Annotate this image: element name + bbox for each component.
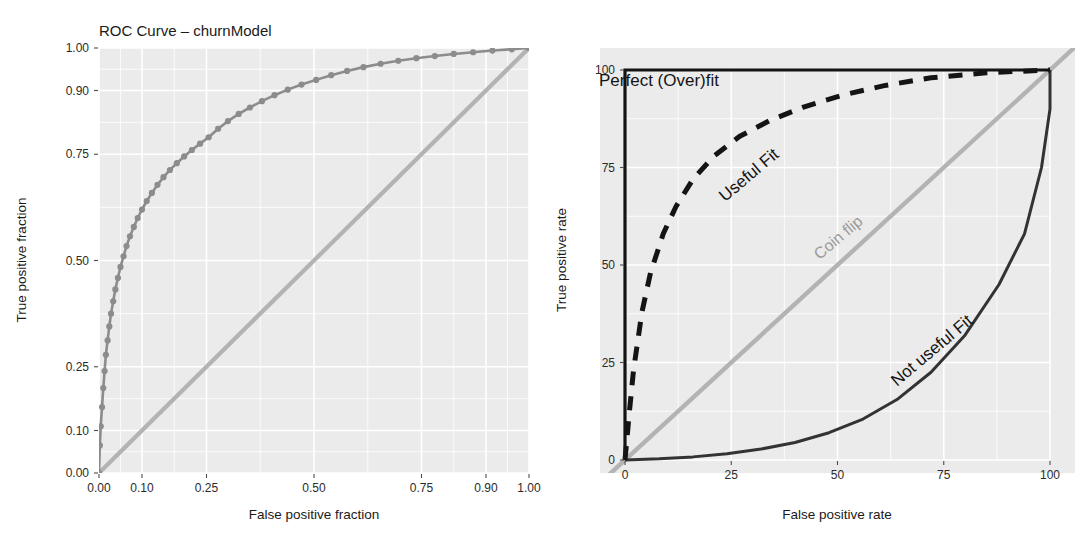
roc-point-marker [181, 153, 187, 159]
y-tick-label: 75 [602, 161, 616, 175]
roc-point-marker [108, 311, 114, 317]
x-tick-label: 50 [831, 468, 845, 482]
y-tick-label: 0.00 [66, 466, 90, 480]
roc-point-marker [139, 206, 145, 212]
roc-point-marker [189, 147, 195, 153]
x-tick-label: 0.90 [474, 481, 498, 495]
y-tick-label: 0.50 [66, 254, 90, 268]
roc-point-marker [115, 275, 121, 281]
x-tick-label: 0.75 [410, 481, 434, 495]
roc-point-marker [99, 404, 105, 410]
annotation-label: Perfect (Over)fit [599, 71, 719, 90]
roc-point-marker [285, 87, 291, 93]
roc-point-marker [197, 141, 203, 147]
roc-point-marker [413, 55, 419, 61]
roc-point-marker [509, 46, 515, 52]
roc-empirical-svg: 0.000.100.250.500.750.901.00 0.000.100.2… [0, 0, 544, 549]
roc-point-marker [526, 45, 532, 51]
roc-point-marker [117, 264, 123, 270]
roc-point-marker [360, 64, 366, 70]
y-tick-label: 0.75 [66, 147, 90, 161]
roc-point-marker [489, 47, 495, 53]
roc-point-marker [127, 233, 133, 239]
y-tick-label: 0.90 [66, 84, 90, 98]
roc-schematic-svg: 0255075100 0255075100 Perfect (Over)fitU… [544, 0, 1088, 549]
roc-point-marker [149, 190, 155, 196]
roc-empirical-panel: 0.000.100.250.500.750.901.00 0.000.100.2… [0, 0, 544, 549]
roc-point-marker [344, 68, 350, 74]
roc-point-marker [154, 182, 160, 188]
y-axis-title: True positive rate [554, 208, 569, 312]
roc-point-marker [97, 442, 103, 448]
y-tick-label: 50 [602, 258, 616, 272]
roc-point-marker [298, 81, 304, 87]
figure-container: 0.000.100.250.500.750.901.00 0.000.100.2… [0, 0, 1088, 549]
roc-point-marker [100, 385, 106, 391]
x-tick-label: 25 [725, 468, 739, 482]
roc-point-marker [131, 224, 137, 230]
roc-point-marker [206, 134, 212, 140]
roc-point-marker [271, 92, 277, 98]
x-tick-label: 0.00 [87, 481, 111, 495]
x-tick-label: 0.25 [195, 481, 219, 495]
roc-point-marker [395, 58, 401, 64]
x-axis-title: False positive fraction [249, 507, 380, 522]
roc-point-marker [112, 286, 118, 292]
roc-point-marker [328, 72, 334, 78]
plot-title: ROC Curve – churnModel [99, 22, 272, 39]
roc-point-marker [123, 243, 129, 249]
x-tick-label: 1.00 [517, 481, 541, 495]
roc-point-marker [236, 111, 242, 117]
y-tick-label: 0 [608, 453, 615, 467]
roc-point-marker [432, 53, 438, 59]
roc-point-marker [110, 298, 116, 304]
roc-point-marker [144, 198, 150, 204]
roc-point-marker [106, 323, 112, 329]
roc-point-marker [105, 337, 111, 343]
roc-point-marker [167, 167, 173, 173]
roc-point-marker [135, 215, 141, 221]
roc-point-marker [247, 104, 253, 110]
roc-point-marker [313, 77, 319, 83]
x-tick-label: 0 [622, 468, 629, 482]
x-tick-label: 100 [1040, 468, 1060, 482]
roc-point-marker [174, 160, 180, 166]
roc-point-marker [215, 126, 221, 132]
roc-point-marker [451, 51, 457, 57]
y-tick-label: 1.00 [66, 41, 90, 55]
roc-point-marker [259, 98, 265, 104]
x-tick-label: 75 [937, 468, 951, 482]
x-tick-label: 0.50 [302, 481, 326, 495]
roc-point-marker [101, 368, 107, 374]
y-axis-title: True positive fraction [14, 198, 29, 323]
y-tick-labels: 0.000.100.250.500.750.901.00 [66, 41, 90, 480]
roc-point-marker [160, 174, 166, 180]
roc-point-marker [103, 352, 109, 358]
roc-point-marker [378, 61, 384, 67]
y-tick-label: 25 [602, 356, 616, 370]
x-tick-labels: 0.000.100.250.500.750.901.00 [87, 481, 541, 495]
roc-point-marker [470, 49, 476, 55]
x-tick-label: 0.10 [130, 481, 154, 495]
y-tick-label: 0.10 [66, 424, 90, 438]
roc-point-marker [225, 118, 231, 124]
roc-schematic-panel: 0255075100 0255075100 Perfect (Over)fitU… [544, 0, 1088, 549]
y-tick-label: 0.25 [66, 360, 90, 374]
x-axis-title: False positive rate [782, 507, 892, 522]
roc-point-marker [120, 253, 126, 259]
